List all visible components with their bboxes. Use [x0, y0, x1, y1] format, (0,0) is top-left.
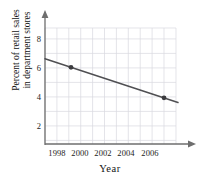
x-axis-title: Year: [60, 163, 160, 174]
x-tick-label-2006: 2006: [137, 148, 163, 158]
data-line: [45, 59, 178, 103]
data-point-2006: [162, 95, 167, 100]
x-tick-label-2004: 2004: [113, 148, 139, 158]
horizontal-gridlines: [45, 28, 176, 140]
retail-sales-line-chart: 8 6 4 2 1998 2000 2002 2004 2006 Percent…: [0, 0, 207, 187]
vertical-gridlines: [45, 28, 176, 144]
y-tick-label-2: 2: [29, 121, 41, 131]
data-point-1999: [69, 65, 74, 70]
y-axis-title-line-1: Percent of retail sales: [11, 9, 22, 91]
y-axis-title: Percent of retail sales in department st…: [0, 0, 44, 118]
y-axis-title-line-2: in department stores: [22, 11, 33, 88]
x-axis: [45, 141, 196, 148]
